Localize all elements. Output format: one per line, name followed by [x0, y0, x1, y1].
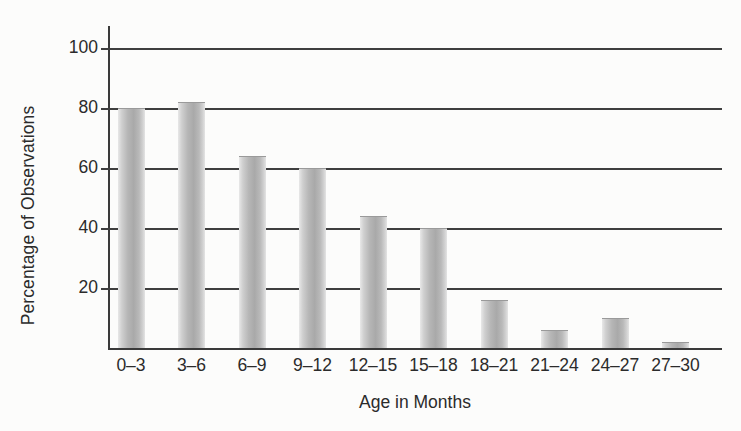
- y-tick-mark-40: [101, 228, 108, 230]
- y-tick-label-80: 80: [52, 99, 98, 117]
- x-axis-title: Age in Months: [108, 392, 722, 413]
- y-tick-mark-80: [101, 108, 108, 110]
- x-tick-label-4: 12–15: [342, 357, 404, 375]
- bar-0-3: [118, 108, 145, 348]
- x-axis-line: [108, 348, 722, 350]
- y-axis-tick-labels: 100 80 60 40 20: [52, 0, 98, 431]
- bar-24-27: [602, 318, 629, 348]
- bar-chart-figure: Percentage of Observations 100 80 60 40 …: [0, 0, 741, 431]
- x-tick-label-6: 18–21: [463, 357, 525, 375]
- y-tick-mark-20: [101, 288, 108, 290]
- x-tick-label-5: 15–18: [403, 357, 465, 375]
- x-tick-label-3: 9–12: [282, 357, 344, 375]
- plot-area: [108, 48, 722, 348]
- bar-6-9: [239, 156, 266, 348]
- x-tick-label-9: 27–30: [645, 357, 707, 375]
- x-tick-label-2: 6–9: [221, 357, 283, 375]
- x-tick-label-8: 24–27: [584, 357, 646, 375]
- x-axis-tick-labels: 0–33–66–99–1212–1515–1818–2121–2424–2727…: [108, 357, 722, 381]
- y-tick-label-60: 60: [52, 159, 98, 177]
- bar-series: [108, 48, 722, 348]
- y-tick-label-40: 40: [52, 219, 98, 237]
- x-tick-label-0: 0–3: [100, 357, 162, 375]
- x-tick-label-1: 3–6: [161, 357, 223, 375]
- y-tick-label-20: 20: [52, 279, 98, 297]
- bar-12-15: [360, 216, 387, 348]
- bar-18-21: [481, 300, 508, 348]
- y-axis-title: Percentage of Observations: [8, 0, 48, 431]
- bar-9-12: [299, 168, 326, 348]
- bar-15-18: [420, 228, 447, 348]
- y-tick-label-100: 100: [52, 39, 98, 57]
- bar-3-6: [178, 102, 205, 348]
- y-tick-mark-60: [101, 168, 108, 170]
- bar-27-30: [662, 342, 689, 348]
- bar-21-24: [541, 330, 568, 348]
- x-tick-label-7: 21–24: [524, 357, 586, 375]
- y-tick-mark-100: [101, 48, 108, 50]
